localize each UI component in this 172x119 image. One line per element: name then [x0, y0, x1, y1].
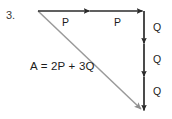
vector-diagram-figure: 3. P P Q Q Q A = 2P + 3Q: [0, 0, 172, 119]
resultant-equation-label: A = 2P + 3Q: [30, 61, 95, 73]
item-number-label: 3.: [6, 10, 15, 21]
vector-label-p-second: P: [114, 17, 121, 28]
vector-label-q-third: Q: [153, 86, 161, 97]
vector-label-q-second: Q: [153, 54, 161, 65]
vector-label-p-first: P: [62, 17, 69, 28]
vector-label-q-first: Q: [153, 22, 161, 33]
